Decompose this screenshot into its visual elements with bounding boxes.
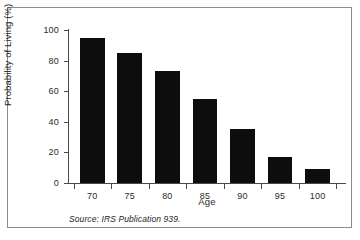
- x-tick-mark: [336, 184, 337, 189]
- bar: [193, 99, 218, 183]
- bar: [117, 53, 142, 183]
- bar-series: [69, 30, 345, 183]
- y-tick-label: 60: [8, 86, 59, 96]
- y-tick-label: 100: [8, 25, 59, 35]
- y-tick-label: 20: [8, 147, 59, 157]
- x-tick-mark: [186, 184, 187, 189]
- figure: Probability of Living (%) 020406080100 7…: [0, 0, 360, 240]
- figure-frame: Probability of Living (%) 020406080100 7…: [7, 7, 352, 228]
- bar: [305, 169, 330, 183]
- x-tick-mark: [224, 184, 225, 189]
- x-axis-title: Age: [198, 196, 216, 207]
- y-tick-label: 80: [8, 56, 59, 66]
- x-tick-mark: [149, 184, 150, 189]
- x-axis-title-wrap: Age: [8, 196, 360, 207]
- bar: [155, 71, 180, 183]
- y-tick-label: 0: [8, 178, 59, 188]
- source-note: Source: IRS Publication 939.: [69, 214, 180, 224]
- bar: [80, 38, 105, 183]
- bar: [268, 157, 293, 183]
- x-tick-mark: [299, 184, 300, 189]
- x-tick-mark: [74, 184, 75, 189]
- y-tick-label: 40: [8, 117, 59, 127]
- bar: [230, 129, 255, 183]
- x-tick-mark: [111, 184, 112, 189]
- x-tick-mark: [261, 184, 262, 189]
